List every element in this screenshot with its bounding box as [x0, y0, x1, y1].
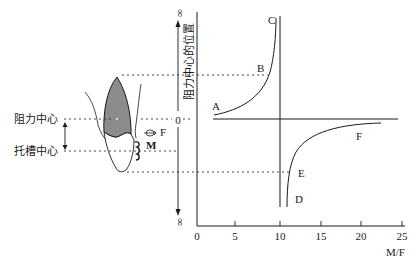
- tooth-crown: [104, 132, 134, 172]
- resistance-center-label: 阻力中心: [14, 113, 58, 126]
- tooth-root: [104, 77, 131, 137]
- x-ticks: [235, 221, 402, 226]
- curve-upper-branch: [214, 18, 276, 115]
- tooth-illustration: F M: [85, 77, 166, 172]
- x-tick-25: 25: [397, 230, 409, 242]
- moment-label: M: [146, 139, 157, 151]
- y-axis-title: 阻力中心的位置: [182, 23, 196, 100]
- bracket-center-label: 托槽中心: [14, 144, 58, 158]
- x-axis-title: M/F: [386, 246, 405, 258]
- arrow-down-icon: [176, 209, 181, 216]
- point-label-A: A: [212, 100, 220, 112]
- point-label-D: D: [295, 193, 303, 205]
- distance-double-arrow-icon: [63, 122, 68, 150]
- x-tick-10: 10: [275, 230, 287, 242]
- resistance-center-dot: [116, 118, 118, 120]
- gingiva-right-line: [135, 84, 141, 138]
- diagram-canvas: F M 阻力中心 托槽中心 ∞ 0 ∞ 阻力中心的位置: [0, 0, 417, 266]
- x-tick-15: 15: [316, 230, 328, 242]
- point-label-F: F: [356, 130, 362, 142]
- moment-rotation-icon: [144, 130, 156, 136]
- x-tick-20: 20: [356, 230, 368, 242]
- zero-symbol: 0: [175, 114, 181, 126]
- x-tick-5: 5: [232, 230, 238, 242]
- infinity-bottom-symbol: ∞: [173, 218, 185, 226]
- x-tick-0: 0: [194, 230, 200, 242]
- infinity-top-symbol: ∞: [173, 9, 185, 17]
- point-label-E: E: [298, 167, 305, 179]
- arrow-up-icon: [176, 20, 181, 27]
- force-label: F: [160, 126, 166, 138]
- point-label-B: B: [257, 62, 264, 74]
- point-label-C: C: [268, 14, 275, 26]
